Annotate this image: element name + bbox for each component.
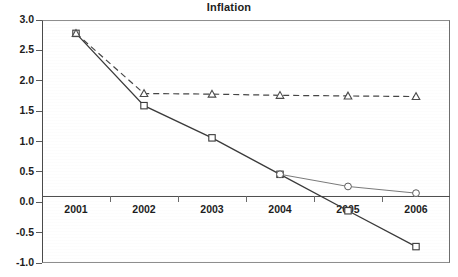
data-point-square [345,208,351,214]
data-point-circle [277,171,284,178]
series-line-square [76,33,416,246]
series-layer [0,0,458,277]
data-point-square [209,135,215,141]
data-point-circle [345,183,352,190]
series-lines [76,33,416,246]
data-point-square [141,102,147,108]
data-point-circle [413,190,420,197]
chart-figure: Inflation 3.02.52.01.51.00.50.0-0.5-1.0 … [0,0,458,277]
data-point-square [413,243,419,249]
series-markers [72,30,420,250]
